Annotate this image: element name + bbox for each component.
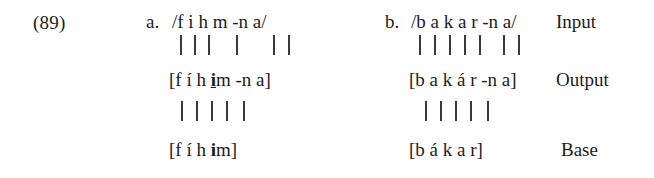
item-a-input-form: /f i h m -n a/: [172, 12, 266, 32]
association-line: [419, 35, 421, 55]
tier-label-input: Input: [556, 12, 596, 32]
item-a-output-suffix: m -n a]: [216, 69, 271, 90]
tier-label-output: Output: [556, 70, 609, 90]
association-line: [503, 35, 505, 55]
association-line: [425, 101, 427, 121]
item-a-output-form: [f í h im -n a]: [169, 70, 271, 90]
association-line: [449, 35, 451, 55]
association-line: [479, 35, 481, 55]
item-a-base-suffix: m]: [216, 139, 237, 160]
association-line: [464, 35, 466, 55]
linguistic-derivation-figure: (89) a. /f i h m -n a/ [f í h im -n a] […: [0, 0, 654, 178]
item-b-base-form: [b á k a r]: [409, 140, 483, 160]
item-b-input-output-association-lines: [0, 34, 654, 56]
association-line: [470, 101, 472, 121]
item-letter-b: b.: [385, 12, 399, 32]
item-a-base-form: [f í h im]: [169, 140, 237, 160]
item-a-base-prefix: [f í h: [169, 139, 211, 160]
item-b-output-form: [b a k á r -n a]: [409, 70, 517, 90]
example-number: (89): [33, 12, 65, 34]
association-line: [518, 35, 520, 55]
association-line: [455, 101, 457, 121]
association-line: [440, 101, 442, 121]
item-a-output-prefix: [f í h: [169, 69, 211, 90]
association-line: [434, 35, 436, 55]
item-b-input-form: /b a k a r -n a/: [411, 12, 517, 32]
item-letter-a: a.: [146, 12, 159, 32]
tier-label-base: Base: [561, 140, 598, 160]
association-line: [487, 101, 489, 121]
item-b-output-base-association-lines: [0, 100, 654, 122]
